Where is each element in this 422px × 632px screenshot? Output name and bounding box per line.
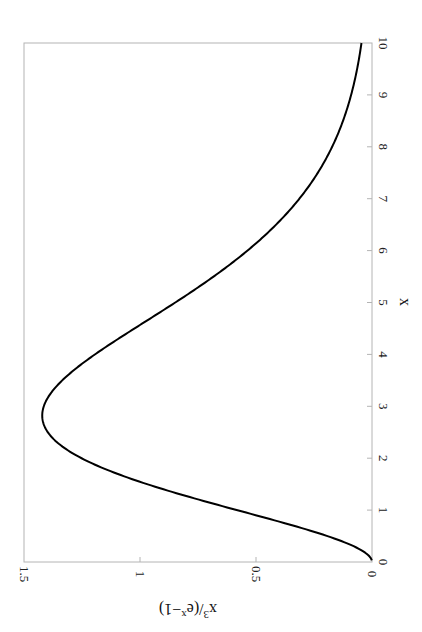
x-tick-label: 9 xyxy=(376,92,391,99)
y-tick-label: 0.5 xyxy=(249,566,264,582)
x-tick-label: 7 xyxy=(376,195,391,202)
y-axis-ticks: 00.511.5 xyxy=(17,557,380,582)
x-axis-ticks: 012345678910 xyxy=(367,37,391,566)
y-label-end: −1) xyxy=(159,600,181,618)
x-tick-label: 2 xyxy=(376,455,391,462)
x-tick-label: 1 xyxy=(376,507,391,513)
x-tick-label: 8 xyxy=(376,144,391,151)
y-tick-label: 0 xyxy=(365,571,380,578)
svg-text:x3/(ex−1): x3/(ex−1) xyxy=(159,600,217,621)
x-tick-label: 5 xyxy=(376,299,391,306)
plot-frame xyxy=(24,43,372,562)
y-tick-label: 1.5 xyxy=(17,566,32,582)
y-label-mid: /(e xyxy=(187,600,204,618)
y-label-base: x xyxy=(209,601,217,618)
x-tick-label: 3 xyxy=(376,403,391,410)
x-tick-label: 0 xyxy=(376,559,391,566)
x-tick-label: 4 xyxy=(376,351,391,358)
x-tick-label: 10 xyxy=(376,37,391,50)
chart-canvas: 012345678910 00.511.5 x x3/(ex−1) xyxy=(0,0,422,632)
y-axis-label: x3/(ex−1) xyxy=(159,600,217,621)
x-tick-label: 6 xyxy=(376,247,391,254)
y-tick-label: 1 xyxy=(133,571,148,578)
data-curve xyxy=(42,43,372,560)
x-axis-label: x xyxy=(397,298,414,306)
